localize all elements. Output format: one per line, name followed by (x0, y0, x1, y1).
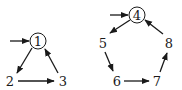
node-6-label: 6 (113, 74, 121, 89)
left-cycle-graph: 1 2 3 (6, 33, 67, 89)
edge-4-5 (110, 20, 130, 33)
node-7-label: 7 (153, 74, 161, 89)
node-1-label: 1 (34, 34, 42, 49)
node-5-label: 5 (99, 36, 107, 51)
node-4-label: 4 (133, 8, 141, 23)
cycle-diagram: 1 2 3 4 5 6 7 8 (0, 0, 182, 90)
edge-1-2 (17, 48, 32, 73)
node-3-label: 3 (59, 74, 67, 89)
edge-3-1 (45, 49, 58, 73)
node-2-label: 2 (6, 74, 14, 89)
edge-8-4 (145, 20, 163, 34)
node-8-label: 8 (165, 36, 173, 51)
right-cycle-graph: 4 5 6 7 8 (99, 7, 173, 89)
edge-7-8 (160, 53, 167, 72)
edge-5-6 (105, 52, 113, 71)
